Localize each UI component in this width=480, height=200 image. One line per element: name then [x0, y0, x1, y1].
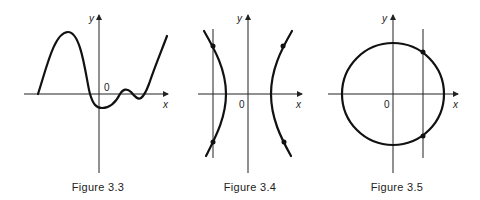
figure-3-5: y x 0 — [328, 13, 459, 173]
caption-figure-3-3: Figure 3.3 — [72, 181, 125, 193]
x-axis-label: x — [295, 99, 302, 110]
y-axis-label: y — [236, 13, 243, 24]
origin-label: 0 — [104, 82, 110, 93]
intersection-point — [421, 50, 426, 55]
origin-label: 0 — [384, 99, 390, 110]
intersection-point — [211, 44, 216, 49]
function-curve — [38, 32, 167, 108]
intersection-point — [421, 134, 426, 139]
figures-canvas: y x 0 y x 0 y x 0 — [0, 0, 480, 200]
y-axis-label: y — [381, 13, 388, 24]
caption-figure-3-4: Figure 3.4 — [224, 181, 277, 193]
caption-figure-3-5: Figure 3.5 — [371, 181, 424, 193]
intersection-point — [211, 140, 216, 145]
point — [281, 44, 286, 49]
point — [282, 140, 287, 145]
figure-3-4: y x 0 — [198, 13, 302, 173]
x-axis-label: x — [452, 99, 459, 110]
figure-3-3: y x 0 — [24, 13, 169, 173]
y-axis-label: y — [88, 13, 95, 24]
x-axis-label: x — [162, 99, 169, 110]
origin-label: 0 — [239, 99, 245, 110]
